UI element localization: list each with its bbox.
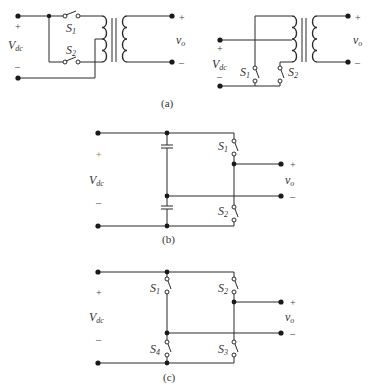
dc-plus-sign: + (96, 149, 102, 160)
dc-plus-sign: + (96, 287, 102, 298)
s1-label: S1 (240, 65, 250, 80)
s1-label: S1 (150, 281, 160, 296)
out-plus-sign: + (290, 297, 296, 308)
vo-label: vo (353, 33, 362, 48)
switch-s3 (232, 340, 238, 357)
switch-s1 (63, 11, 80, 18)
dc-minus-sign: – (216, 71, 223, 82)
vo-label: vo (285, 173, 294, 188)
figure-c-circuit: + Vdc – S1 S2 S3 S4 + vo – (89, 269, 296, 365)
dc-minus-sign: – (95, 197, 102, 208)
s1-label: S1 (66, 21, 76, 36)
vdc-label: Vdc (89, 173, 104, 188)
caption-a: (a) (161, 97, 174, 110)
vdc-label: Vdc (89, 310, 104, 325)
s2-label: S2 (218, 204, 228, 219)
s2-label: S2 (66, 43, 76, 58)
out-minus-sign: – (289, 191, 296, 202)
switch-s2 (63, 57, 80, 64)
dc-minus-sign: – (95, 334, 102, 345)
secondary-winding (123, 16, 128, 62)
caption-c: (c) (163, 371, 176, 384)
out-plus-sign: + (290, 159, 296, 170)
primary-winding (102, 16, 107, 62)
vo-label: vo (285, 310, 294, 325)
inverter-circuit-diagrams: + Vdc – S1 S2 + vo – (0, 0, 370, 391)
out-plus-sign: + (179, 12, 185, 23)
figure-a-right-circuit: + Vdc – S1 S2 + vo – (212, 12, 362, 89)
out-plus-sign: + (355, 12, 361, 23)
switch-s4 (165, 340, 171, 357)
terminal-dc-plus (15, 13, 20, 18)
figure-a-left-circuit: + Vdc – S1 S2 + vo – (8, 11, 185, 81)
s4-label: S4 (150, 342, 160, 357)
switch-s2 (278, 66, 284, 83)
switch-s2 (232, 277, 238, 294)
s2-label: S2 (218, 281, 228, 296)
switch-s2 (232, 205, 238, 222)
terminal-dc-minus (15, 75, 20, 80)
s1-label: S1 (218, 139, 228, 154)
figure-b-circuit: + Vdc – S1 S2 + vo – (89, 130, 296, 228)
switch-s1 (165, 277, 171, 294)
junction (47, 14, 51, 18)
s3-label: S3 (218, 342, 228, 357)
s2-label: S2 (288, 65, 298, 80)
terminal-out-plus (169, 13, 174, 18)
terminal-out-minus (169, 59, 174, 64)
out-minus-sign: – (354, 57, 361, 68)
dc-minus-sign: – (14, 61, 21, 72)
vdc-label: Vdc (8, 38, 23, 53)
caption-b: (b) (162, 233, 175, 246)
vo-label: vo (176, 33, 185, 48)
switch-s1 (253, 66, 259, 83)
dc-plus-sign: + (15, 21, 21, 32)
out-minus-sign: – (178, 57, 185, 68)
vdc-label: Vdc (212, 57, 227, 72)
out-minus-sign: – (289, 328, 296, 339)
switch-s1 (232, 139, 238, 156)
dc-plus-sign: + (217, 43, 223, 54)
